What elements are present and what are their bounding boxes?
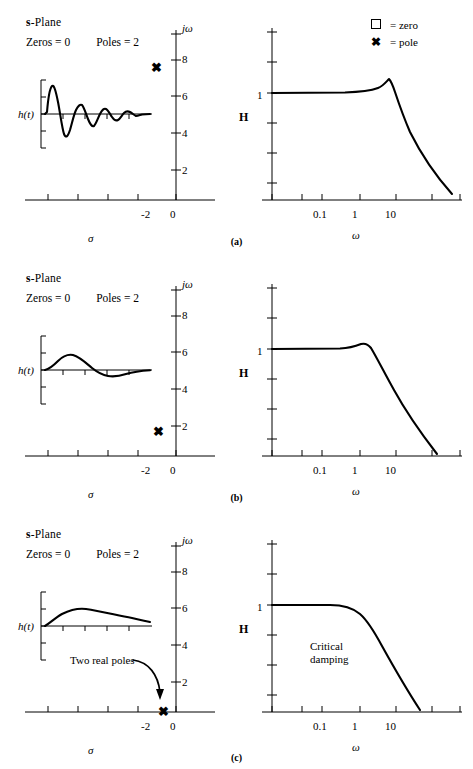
- bode-axes-c: [262, 540, 462, 712]
- impulse-curve-c: [45, 609, 150, 626]
- annotation-arrowhead-c: [156, 689, 164, 700]
- impulse-curve-a: [45, 86, 150, 137]
- caption-c: (c): [0, 752, 473, 763]
- impulse-curve-b: [45, 355, 150, 377]
- panel-a: s-Plane Zeros = 0Poles = 2 h(t) σ jω 8 6…: [0, 0, 473, 256]
- bode-axes-b: [262, 284, 462, 456]
- impulse-axes-c: [41, 592, 152, 660]
- bode-curve-b: [272, 344, 437, 454]
- caption-b: (b): [0, 492, 473, 503]
- caption-a: (a): [0, 236, 473, 247]
- splane-axes-c: [25, 542, 215, 712]
- panel-c: s-Plane Zeros = 0Poles = 2 h(t) σ jω 8 6…: [0, 512, 473, 768]
- bode-curve-c: [272, 605, 420, 710]
- annotation-arrow-c: [133, 660, 160, 692]
- splane-axes-a: [25, 30, 215, 200]
- panel-b: s-Plane Zeros = 0Poles = 2 h(t) σ jω 8 6…: [0, 256, 473, 512]
- bode-curve-a: [272, 79, 452, 194]
- pole-marker-b: ✖: [153, 424, 164, 439]
- panel-b-graphics: ✖: [0, 256, 473, 512]
- panel-a-graphics: ✖: [0, 0, 473, 256]
- panel-c-graphics: ✖: [0, 512, 473, 768]
- bode-axes-a: [262, 28, 462, 200]
- impulse-axes-a: [41, 80, 152, 148]
- pole-marker-a: ✖: [151, 60, 162, 75]
- splane-axes-b: [25, 286, 215, 456]
- pole-marker-c: ✖: [158, 704, 169, 719]
